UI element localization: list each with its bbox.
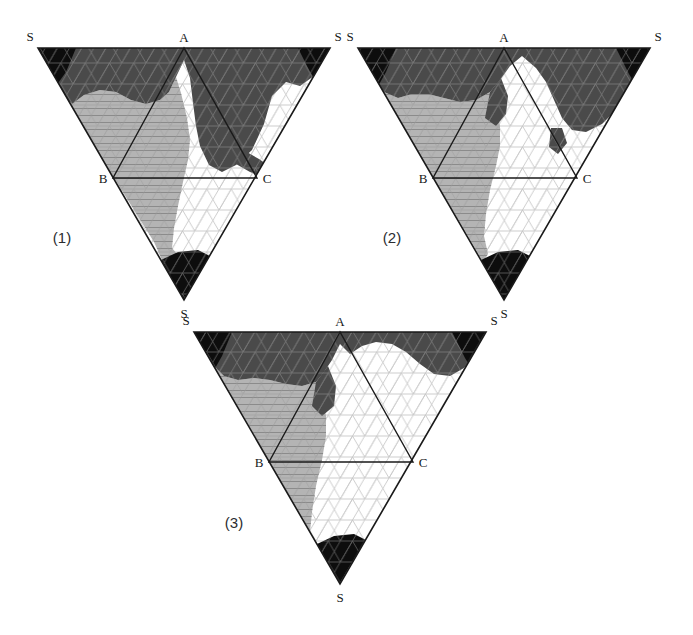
vertex-label-c: C — [583, 171, 592, 186]
vertex-label-a: A — [179, 30, 189, 45]
ternary-diagram-panel-1: S S S A B C (1) — [0, 0, 360, 330]
vertex-label-c: C — [263, 171, 272, 186]
triangular-grid-overlay — [0, 0, 360, 330]
vertex-label-s-top-left: S — [26, 29, 33, 44]
vertex-label-b: B — [99, 171, 108, 186]
vertex-label-a: A — [335, 314, 345, 329]
panel-2-body — [340, 0, 693, 330]
ternary-diagram-panel-3: S S S A B C (3) — [170, 310, 530, 635]
triangular-grid-overlay — [170, 310, 530, 635]
panel-3-body — [170, 310, 530, 635]
vertex-label-s-top-left: S — [346, 29, 353, 44]
vertex-label-a: A — [499, 30, 509, 45]
panel-caption-3: (3) — [225, 514, 243, 531]
vertex-label-s-top-left: S — [182, 313, 189, 328]
vertex-label-b: B — [255, 455, 264, 470]
vertex-label-s-top-right: S — [490, 313, 497, 328]
vertex-label-b: B — [419, 171, 428, 186]
panel-caption-2: (2) — [383, 229, 401, 246]
figure-canvas: S S S A B C (1) — [0, 0, 693, 635]
vertex-label-c: C — [419, 455, 428, 470]
panel-caption-1: (1) — [53, 229, 71, 246]
vertex-label-s-top-right: S — [654, 29, 661, 44]
triangular-grid-overlay — [340, 0, 693, 330]
panel-1-body — [0, 0, 360, 330]
vertex-label-s-bottom: S — [336, 590, 343, 605]
ternary-diagram-panel-2: S S S A B C (2) — [340, 0, 693, 330]
